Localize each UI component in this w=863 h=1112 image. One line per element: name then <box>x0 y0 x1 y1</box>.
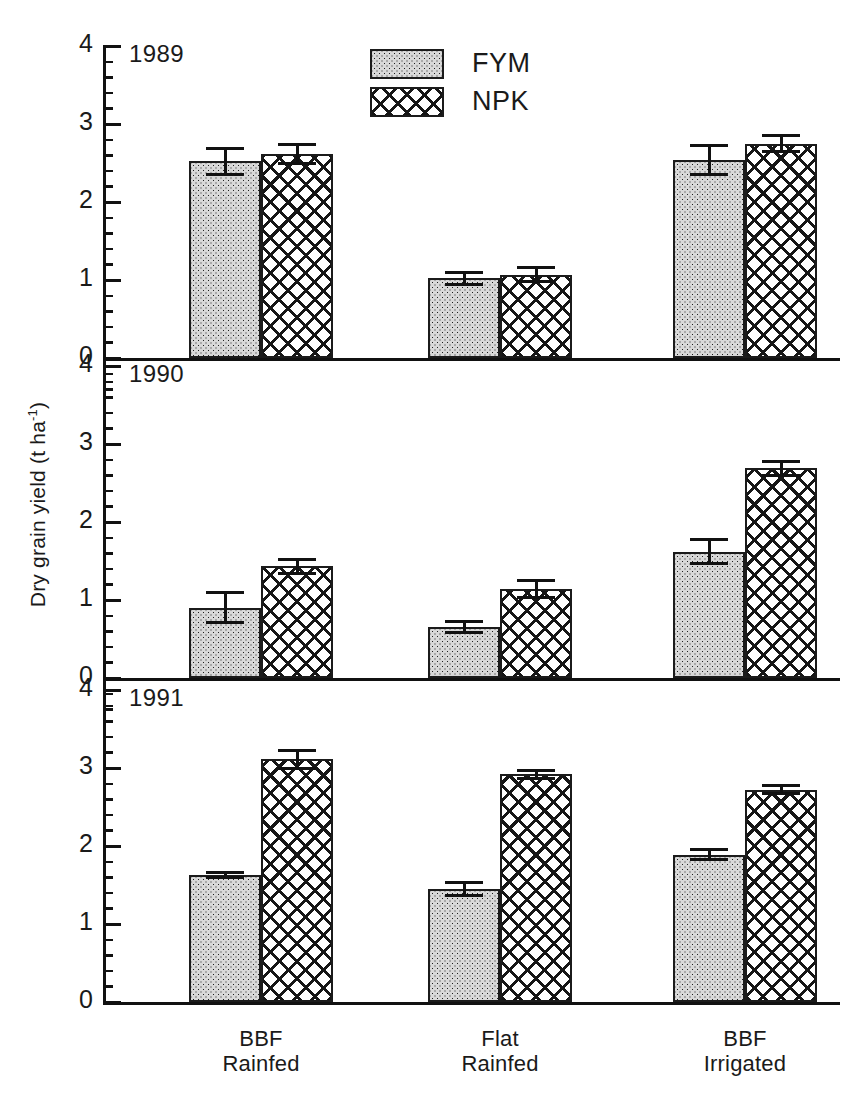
y-tick-label-3: 3 <box>53 429 93 454</box>
error-bar-cap-upper <box>278 143 316 146</box>
legend-swatch-fym <box>370 49 444 79</box>
y-axis-title: Dry grain yield (t ha-1) <box>25 340 50 670</box>
error-bar-cap-upper <box>206 147 244 150</box>
error-bar-cap-lower <box>517 596 555 599</box>
y-tick-label-4: 4 <box>53 675 93 700</box>
bar-1989-bbf-rainfed-fym <box>189 161 261 358</box>
plot-area-1990 <box>103 366 840 678</box>
error-bar-cap-upper <box>278 749 316 752</box>
error-bar-stem <box>708 144 711 177</box>
x-category-bbf-irrigated: BBFIrrigated <box>655 1026 835 1077</box>
error-bar-cap-lower <box>690 858 728 861</box>
bar-1989-flat-rainfed-fym <box>428 278 500 358</box>
error-bar-cap-lower <box>278 767 316 770</box>
error-bar-cap-upper <box>206 871 244 874</box>
legend-swatch-npk <box>370 87 444 117</box>
chart-figure: Dry grain yield (t ha-1) 012341989012341… <box>0 0 863 1112</box>
bar-1991-flat-rainfed-npk <box>500 774 572 1002</box>
bar-1990-flat-rainfed-fym <box>428 627 500 678</box>
y-tick-label-1: 1 <box>53 265 93 290</box>
x-category-line-0: BBF <box>171 1026 351 1051</box>
x-category-line-0: BBF <box>655 1026 835 1051</box>
x-category-bbf-rainfed: BBFRainfed <box>171 1026 351 1077</box>
x-category-line-1: Rainfed <box>410 1051 590 1076</box>
error-bar-cap-upper <box>517 579 555 582</box>
error-bar-cap-lower <box>206 876 244 879</box>
error-bar-cap-lower <box>445 283 483 286</box>
error-bar-cap-upper <box>762 460 800 463</box>
error-bar-stem <box>224 147 227 177</box>
error-bar-cap-lower <box>762 150 800 153</box>
x-category-line-1: Rainfed <box>171 1051 351 1076</box>
plot-area-1991 <box>103 690 840 1002</box>
error-bar-cap-upper <box>762 134 800 137</box>
y-tick-label-2: 2 <box>53 831 93 856</box>
y-tick-label-4: 4 <box>53 31 93 56</box>
error-bar-cap-upper <box>445 881 483 884</box>
y-tick-label-4: 4 <box>53 351 93 376</box>
error-bar-cap-upper <box>690 848 728 851</box>
y-axis-title-close: ) <box>26 402 49 409</box>
bar-1991-bbf-irrigated-npk <box>745 790 817 1002</box>
y-tick-label-3: 3 <box>53 753 93 778</box>
y-tick-label-2: 2 <box>53 507 93 532</box>
bar-1990-flat-rainfed-npk <box>500 589 572 678</box>
error-bar-cap-lower <box>206 621 244 624</box>
error-bar-cap-upper <box>206 591 244 594</box>
error-bar-cap-lower <box>762 474 800 477</box>
error-bar-cap-lower <box>278 572 316 575</box>
y-tick-label-1: 1 <box>53 909 93 934</box>
error-bar-cap-upper <box>762 784 800 787</box>
error-bar-cap-upper <box>690 538 728 541</box>
x-category-flat-rainfed: FlatRainfed <box>410 1026 590 1077</box>
y-tick-label-3: 3 <box>53 109 93 134</box>
legend: FYMNPK <box>370 48 630 128</box>
legend-label-fym: FYM <box>472 48 531 79</box>
error-bar-cap-upper <box>517 769 555 772</box>
error-bar-cap-lower <box>445 631 483 634</box>
y-axis-title-text: Dry grain yield (t ha <box>26 421 49 607</box>
y-tick-label-2: 2 <box>53 187 93 212</box>
x-category-line-1: Irrigated <box>655 1051 835 1076</box>
error-bar-cap-lower <box>206 173 244 176</box>
x-axis-baseline-1989 <box>103 358 840 361</box>
x-axis-baseline-1990 <box>103 678 840 681</box>
y-tick-label-1: 1 <box>53 585 93 610</box>
bar-1990-bbf-rainfed-npk <box>261 566 333 678</box>
legend-label-npk: NPK <box>472 86 529 117</box>
error-bar-cap-lower <box>517 280 555 283</box>
error-bar-cap-upper <box>517 266 555 269</box>
error-bar-cap-lower <box>517 777 555 780</box>
error-bar-cap-lower <box>690 562 728 565</box>
bar-1991-bbf-rainfed-fym <box>189 875 261 1002</box>
x-category-line-0: Flat <box>410 1026 590 1051</box>
x-axis-baseline-1991 <box>103 1002 840 1005</box>
error-bar-cap-upper <box>278 558 316 561</box>
error-bar-cap-lower <box>445 894 483 897</box>
error-bar-cap-upper <box>690 144 728 147</box>
bar-1989-flat-rainfed-npk <box>500 275 572 358</box>
y-axis-title-exponent: -1 <box>25 409 40 421</box>
bar-1991-bbf-irrigated-fym <box>673 855 745 1002</box>
bar-1990-bbf-irrigated-fym <box>673 552 745 678</box>
bar-1991-flat-rainfed-fym <box>428 889 500 1002</box>
error-bar-cap-lower <box>278 162 316 165</box>
error-bar-cap-lower <box>690 173 728 176</box>
bar-1989-bbf-rainfed-npk <box>261 154 333 358</box>
error-bar-cap-lower <box>762 792 800 795</box>
y-tick-label-0: 0 <box>53 987 93 1012</box>
bar-1990-bbf-irrigated-npk <box>745 468 817 678</box>
error-bar-cap-upper <box>445 271 483 274</box>
error-bar-cap-upper <box>445 620 483 623</box>
bar-1989-bbf-irrigated-fym <box>673 160 745 358</box>
bar-1991-bbf-rainfed-npk <box>261 759 333 1002</box>
error-bar-stem <box>224 591 227 624</box>
bar-1989-bbf-irrigated-npk <box>745 144 817 359</box>
legend-item-fym: FYM <box>370 48 531 79</box>
legend-item-npk: NPK <box>370 86 529 117</box>
